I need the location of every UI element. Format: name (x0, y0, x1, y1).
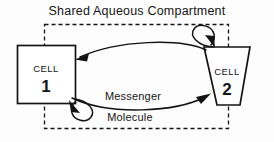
cell-1-number: 1 (41, 77, 50, 96)
arrowhead-into-cell-2 (196, 94, 211, 105)
cell-2-number: 2 (222, 80, 231, 99)
connector-cell2-to-cell1 (80, 42, 206, 57)
cell-1-word: CELL (33, 63, 58, 74)
diagram-canvas: Shared Aqueous Compartment CELL 1 CELL 2… (0, 0, 274, 142)
flow-label-messenger: Messenger (105, 90, 161, 102)
cell-2-word: CELL (214, 66, 239, 77)
flow-label-molecule: Molecule (107, 111, 153, 123)
arrowhead-into-cell-1 (75, 54, 89, 62)
diagram-figure: Shared Aqueous Compartment CELL 1 CELL 2… (0, 0, 274, 142)
figure-title: Shared Aqueous Compartment (49, 4, 226, 18)
